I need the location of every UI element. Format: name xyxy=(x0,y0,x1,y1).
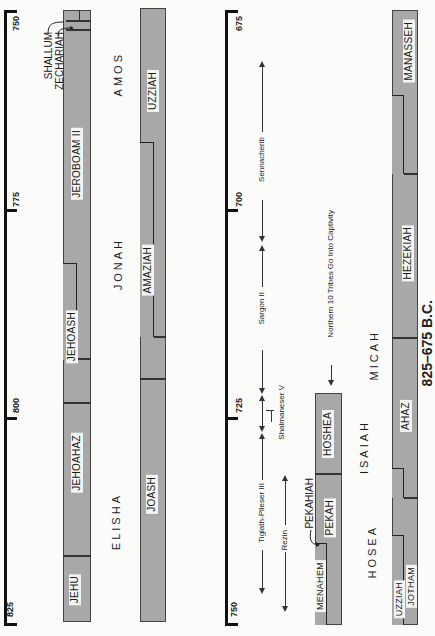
prophet-jonah: JONAH xyxy=(112,238,124,290)
king-label-menahem: MENAHEM xyxy=(315,560,326,612)
captivity-line xyxy=(331,365,332,380)
right-tick-750 xyxy=(225,623,238,626)
callout-zechariah: ZECHARIAH xyxy=(54,32,65,90)
captivity-arrow xyxy=(328,380,334,386)
tiglath-line-bottom xyxy=(262,550,263,590)
left-tick-label-775: 775 xyxy=(10,190,22,208)
sennacherib-line-bottom xyxy=(262,200,263,237)
manasseh-coregency-bottom xyxy=(404,173,418,175)
israel-vertical-split xyxy=(79,10,80,20)
jeroboam-jehoahaz-divider xyxy=(63,402,91,404)
tiglath-arrow-bottom xyxy=(259,588,265,594)
manasseh-coregency-box xyxy=(392,95,404,174)
assyrian-king-shalmaneser-v: Shalmaneser V xyxy=(277,385,286,440)
king-label-jeroboam-ii: JEROBOAM II xyxy=(71,128,83,200)
left-tick-750 xyxy=(4,10,17,13)
assyrian-king-sargon-ii: Sargon II xyxy=(257,292,266,324)
prophet-amos: AMOS xyxy=(112,52,124,96)
jehoash-coregency-bottom xyxy=(77,358,91,360)
callout-pekahiah: PEKAHIAH xyxy=(304,478,315,529)
left-tick-800 xyxy=(4,417,17,420)
king-label-ahaz: AHAZ xyxy=(400,400,412,432)
right-tick-label-700: 700 xyxy=(233,190,245,208)
tiglath-line-top xyxy=(262,438,263,480)
right-tick-700 xyxy=(225,209,238,212)
shalmaneser-pointer-line xyxy=(271,410,272,422)
left-tick-label-750: 750 xyxy=(10,14,22,32)
right-time-axis xyxy=(225,10,228,626)
syrian-king-rezin: Rezin xyxy=(280,530,289,550)
shalmaneser-pointer-stem xyxy=(266,410,274,411)
amaziah-coregency-box xyxy=(140,142,154,337)
jehoahaz-jehu-divider xyxy=(63,555,91,557)
right-tick-725 xyxy=(225,417,238,420)
left-time-axis xyxy=(4,10,7,626)
king-label-hezekiah: HEZEKIAH xyxy=(402,225,414,281)
amaziah-coregency-bottom xyxy=(154,336,166,338)
callout-shallum: SHALLUM xyxy=(43,32,54,79)
right-tick-label-750: 750 xyxy=(228,600,240,618)
prophet-elisha: ELISHA xyxy=(110,493,122,550)
shallum-zechariah-callout-arrows xyxy=(44,16,78,38)
king-label-uzziah-left: UZZIAH xyxy=(147,70,159,112)
left-tick-775 xyxy=(4,209,17,212)
event-northern-tribes-captivity: Northern 10 Tribes Go Into Captivity xyxy=(326,210,335,338)
sennacherib-arrow-bottom xyxy=(259,236,265,242)
king-label-jehoahaz: JEHOAHAZ xyxy=(71,433,83,493)
prophet-hosea: HOSEA xyxy=(366,525,378,579)
prophet-isaiah: ISAIAH xyxy=(358,420,370,474)
figure-caption-date-range: 825–675 B.C. xyxy=(419,300,435,386)
ahaz-coregency-box xyxy=(392,468,404,498)
shalmaneser-arrow-bottom xyxy=(259,426,265,432)
sennacherib-line-top xyxy=(262,66,263,132)
shalmaneser-line xyxy=(262,400,263,427)
sargon-line-bottom xyxy=(262,350,263,390)
king-label-joash: JOASH xyxy=(146,475,158,514)
assyrian-king-tiglath-pileser-iii: Tiglath-Pileser III xyxy=(257,483,266,543)
rezin-line-bottom xyxy=(285,552,286,608)
right-tick-label-675: 675 xyxy=(233,14,245,32)
left-tick-label-800: 800 xyxy=(10,396,22,414)
hezekiah-ahaz-divider xyxy=(392,337,418,339)
left-tick-label-825: 825 xyxy=(4,600,16,618)
ahaz-coregency-bottom xyxy=(404,497,418,499)
prophet-micah: MICAH xyxy=(368,330,380,380)
sargon-arrow-bottom xyxy=(259,388,265,394)
assyrian-king-sennacherib: Sennacherib xyxy=(257,137,266,182)
king-label-jotham: JOTHAM xyxy=(406,565,417,608)
king-label-amaziah: AMAZIAH xyxy=(142,245,154,296)
king-label-jehoash: JEHOASH xyxy=(66,310,78,363)
rezin-line-top xyxy=(285,480,286,525)
hoshea-pekah-divider xyxy=(315,473,342,475)
king-label-pekah: PEKAH xyxy=(324,498,336,537)
king-label-jehu: JEHU xyxy=(69,574,81,605)
sargon-line-top xyxy=(262,250,263,287)
pekahiah-callout-arrow xyxy=(306,530,322,550)
right-tick-label-725: 725 xyxy=(233,396,245,414)
rezin-arrow-bottom xyxy=(282,606,288,612)
king-label-hoshea: HOSHEA xyxy=(322,410,334,458)
king-label-manasseh: MANASSEH xyxy=(403,20,415,83)
left-tick-825 xyxy=(4,623,17,626)
right-tick-675 xyxy=(225,10,238,13)
amaziah-joash-divider xyxy=(140,378,166,380)
king-label-uzziah-right: UZZIAH xyxy=(394,580,405,618)
sennacherib-arrow-top xyxy=(259,61,265,67)
